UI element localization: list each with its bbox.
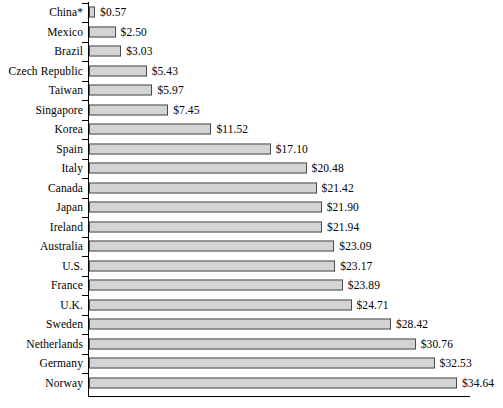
bar (89, 358, 435, 369)
bar-row: Australia$23.09 (0, 237, 503, 257)
bar-value-label: $23.09 (339, 240, 371, 252)
category-label: Norway (45, 377, 83, 389)
category-label: Spain (56, 143, 83, 155)
bar (89, 202, 322, 213)
bar (89, 280, 343, 291)
bar-row: Sweden$28.42 (0, 315, 503, 335)
bar-value-label: $20.48 (312, 162, 344, 174)
bar-value-label: $21.94 (327, 221, 359, 233)
category-label: France (51, 279, 83, 291)
bar-value-label: $30.76 (421, 338, 453, 350)
bar-row: Japan$21.90 (0, 198, 503, 218)
bar-value-label: $5.43 (152, 65, 178, 77)
bar-value-label: $17.10 (276, 143, 308, 155)
bar-row: China*$0.57 (0, 3, 503, 23)
category-label: Italy (61, 162, 83, 174)
bar-value-label: $2.50 (121, 26, 147, 38)
bar-row: Canada$21.42 (0, 178, 503, 198)
bar (89, 299, 352, 310)
bar (89, 338, 416, 349)
bar-value-label: $24.71 (357, 299, 389, 311)
category-label: Netherlands (26, 338, 83, 350)
bar-chart: China*$0.57Mexico$2.50Brazil$3.03Czech R… (0, 0, 503, 408)
bar-row: Czech Republic$5.43 (0, 61, 503, 81)
category-label: Mexico (47, 26, 83, 38)
bar-value-label: $11.52 (216, 123, 248, 135)
category-axis-line (88, 2, 89, 396)
bar-row: Singapore$7.45 (0, 100, 503, 120)
category-label: Taiwan (49, 84, 83, 96)
bar (89, 46, 121, 57)
category-label: Brazil (54, 45, 83, 57)
bar (89, 124, 211, 135)
category-label: U.S. (62, 260, 83, 272)
bar (89, 260, 335, 271)
bar (89, 143, 271, 154)
bar-value-label: $28.42 (396, 318, 428, 330)
bar (89, 377, 457, 388)
category-label: Ireland (50, 221, 83, 233)
bar-row: U.K.$24.71 (0, 295, 503, 315)
category-label: Sweden (46, 318, 83, 330)
bar-value-label: $34.64 (462, 377, 494, 389)
bar (89, 7, 95, 18)
bar (89, 65, 147, 76)
bar (89, 182, 317, 193)
bar-value-label: $7.45 (173, 104, 199, 116)
plot-area: China*$0.57Mexico$2.50Brazil$3.03Czech R… (0, 0, 503, 396)
bar-row: Spain$17.10 (0, 139, 503, 159)
category-label: Canada (48, 182, 83, 194)
bar-value-label: $23.89 (348, 279, 380, 291)
category-label: Japan (56, 201, 83, 213)
bar-row: France$23.89 (0, 276, 503, 296)
category-label: Korea (54, 123, 83, 135)
category-label: Germany (40, 357, 84, 369)
bar (89, 241, 334, 252)
bar-value-label: $3.03 (126, 45, 152, 57)
category-label: Australia (40, 240, 83, 252)
bar (89, 104, 168, 115)
bar (89, 85, 152, 96)
bar (89, 26, 116, 37)
bar-value-label: $21.42 (322, 182, 354, 194)
bar-value-label: $32.53 (440, 357, 472, 369)
bar-row: Brazil$3.03 (0, 42, 503, 62)
category-label: U.K. (60, 299, 83, 311)
bar-row: Ireland$21.94 (0, 217, 503, 237)
bar-row: Norway$34.64 (0, 373, 503, 393)
bar-row: Italy$20.48 (0, 159, 503, 179)
bar-row: Netherlands$30.76 (0, 334, 503, 354)
value-axis-line (88, 396, 470, 397)
bar-row: U.S.$23.17 (0, 256, 503, 276)
bar (89, 319, 391, 330)
bar-value-label: $21.90 (327, 201, 359, 213)
bar-value-label: $23.17 (340, 260, 372, 272)
bar (89, 221, 322, 232)
bar (89, 163, 307, 174)
category-label: Czech Republic (8, 65, 83, 77)
category-label: China* (49, 6, 83, 18)
bar-row: Korea$11.52 (0, 120, 503, 140)
bar-value-label: $5.97 (157, 84, 183, 96)
category-label: Singapore (35, 104, 83, 116)
bar-row: Germany$32.53 (0, 354, 503, 374)
bar-row: Mexico$2.50 (0, 22, 503, 42)
bar-row: Taiwan$5.97 (0, 81, 503, 101)
bar-value-label: $0.57 (100, 6, 126, 18)
